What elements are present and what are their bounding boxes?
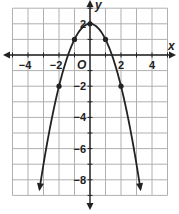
x-tick-label: 4 (149, 59, 156, 71)
y-tick-label: −8 (73, 174, 86, 186)
y-axis-label: y (94, 0, 103, 12)
x-tick-label: −2 (50, 59, 63, 71)
y-tick-label: −2 (73, 80, 86, 92)
y-axis-up-arrow-icon (87, 0, 94, 7)
y-tick-label: −4 (73, 111, 86, 123)
axes (3, 0, 176, 210)
x-axis-label: x (167, 39, 176, 53)
y-axis-down-arrow-icon (87, 203, 94, 210)
data-point (87, 21, 92, 26)
origin-label: O (77, 58, 87, 72)
curve-arrow-icon (37, 183, 44, 191)
curve-arrow-icon (136, 183, 143, 191)
x-tick-label: −4 (19, 59, 32, 71)
data-point (56, 84, 61, 89)
x-tick-label: 2 (118, 59, 124, 71)
x-axis-left-arrow-icon (3, 52, 10, 59)
parabola-graph: −4−2242−2−4−6−8 x y O (0, 0, 179, 214)
data-point (118, 84, 123, 89)
data-point (103, 37, 108, 42)
data-point (72, 37, 77, 42)
y-tick-label: −6 (73, 143, 86, 155)
